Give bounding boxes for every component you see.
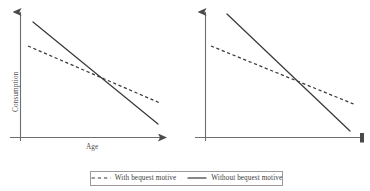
solid-line-swatch <box>187 175 207 181</box>
legend-label-with-bequest-motive: With bequest motive <box>115 175 177 182</box>
wealth-chart-svg <box>185 0 370 160</box>
legend: With bequest motive Without bequest moti… <box>90 171 283 186</box>
series-line-without-bequest-motive <box>227 14 350 131</box>
series-line-with-bequest-motive <box>28 46 160 103</box>
legend-label-without-bequest-motive: Without bequest motive <box>211 175 282 182</box>
chart-panel-wealth: Wealth Age <box>185 0 370 160</box>
figure-root: Consumption Age Wealth Age <box>0 0 370 191</box>
chart-panel-consumption: Consumption Age <box>0 0 185 160</box>
legend-entry-with-bequest-motive: With bequest motive <box>91 175 177 182</box>
x-axis-label-age: Age <box>86 144 98 151</box>
y-axis-label-consumption: Consumption <box>13 72 20 112</box>
series-line-with-bequest-motive <box>211 46 356 105</box>
series-line-without-bequest-motive <box>33 22 158 124</box>
dashed-line-swatch <box>91 175 111 181</box>
legend-entry-without-bequest-motive: Without bequest motive <box>187 175 282 182</box>
consumption-chart-svg <box>0 0 185 160</box>
